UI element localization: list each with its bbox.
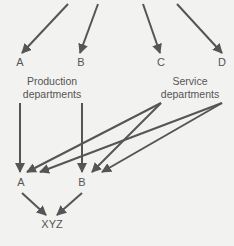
bottom-node-a: A [17,176,24,189]
arrow-to-a [22,4,68,53]
arrow-a-xyz [22,193,46,215]
arrow-to-c [143,4,160,53]
diagram-arrows [0,0,234,246]
service-line1: Service [161,75,219,88]
production-departments-label: Production departments [23,75,81,101]
top-node-a: A [16,56,23,69]
bottom-node-b: B [78,176,85,189]
top-node-c: C [157,56,165,69]
production-line2: departments [23,88,81,101]
top-node-b: B [77,56,84,69]
arrow-b-xyz [57,193,82,215]
service-line2: departments [161,88,219,101]
arrow-to-d [177,4,222,53]
production-line1: Production [23,75,81,88]
arrow-service-c-a [27,103,161,172]
top-node-d: D [218,56,226,69]
product-xyz: XYZ [41,218,62,231]
arrow-service-c-b [92,103,161,172]
arrow-to-b [80,4,98,53]
service-departments-label: Service departments [161,75,219,101]
arrow-service-d-b [102,103,222,172]
arrow-service-d-a [40,103,222,172]
